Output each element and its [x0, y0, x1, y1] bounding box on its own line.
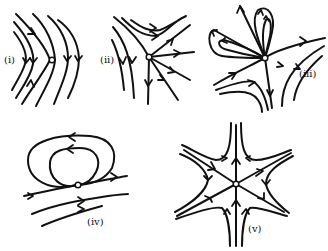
- fixed-point-iii: [262, 55, 268, 61]
- panel-i: (i): [4, 14, 82, 106]
- panel-v: (v): [175, 123, 293, 246]
- panel-ii: (ii): [100, 16, 194, 104]
- panel-label-v: (v): [248, 223, 262, 234]
- fixed-point-v: [233, 181, 239, 187]
- panel-label-ii: (ii): [100, 54, 114, 65]
- phase-portraits-figure: (i) (ii) (ii: [0, 0, 328, 251]
- panel-iii: (iii): [209, 6, 325, 112]
- panel-iv: (iv): [24, 133, 128, 227]
- fixed-point-ii: [146, 54, 152, 60]
- panel-label-iv: (iv): [87, 216, 104, 227]
- fixed-point-i: [49, 57, 55, 63]
- panel-label-i: (i): [4, 54, 15, 65]
- fixed-point-iv: [75, 182, 81, 188]
